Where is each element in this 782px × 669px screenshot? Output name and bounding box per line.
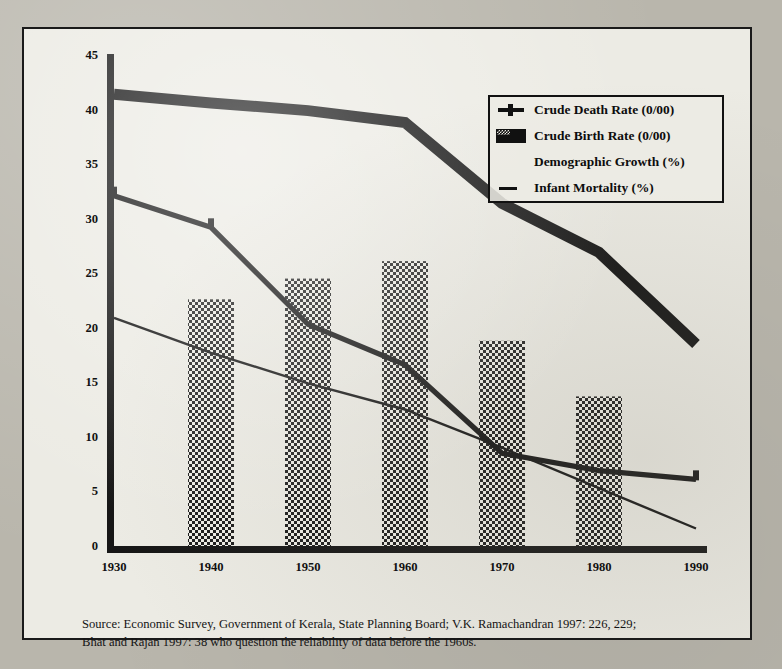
thick-line-with-marker-icon (496, 103, 526, 117)
thin-line-icon (496, 181, 526, 195)
legend-item-birth: Crude Birth Rate (0/00) (490, 123, 722, 149)
marker-death-1940 (208, 218, 214, 228)
y-tick-40: 40 (68, 103, 98, 118)
crosshatch-bar-icon (496, 155, 526, 169)
legend-item-infant: Infant Mortality (%) (490, 175, 722, 201)
figure-frame: 051015202530354045 193019401950196019701… (22, 27, 752, 640)
x-tick-1990: 1990 (669, 560, 723, 575)
bar-1970 (479, 341, 525, 547)
source-line-1: Source: Economic Survey, Government of K… (82, 617, 611, 631)
x-tick-1980: 1980 (572, 560, 626, 575)
y-tick-5: 5 (68, 484, 98, 499)
legend-item-death: Crude Death Rate (0/00) (490, 97, 722, 123)
legend-label-infant: Infant Mortality (%) (534, 180, 654, 196)
y-tick-0: 0 (68, 539, 98, 554)
x-tick-1960: 1960 (378, 560, 432, 575)
y-tick-20: 20 (68, 321, 98, 336)
y-tick-15: 15 (68, 375, 98, 390)
source-note: Source: Economic Survey, Government of K… (82, 615, 642, 651)
legend-label-demographic: Demographic Growth (%) (534, 154, 685, 170)
y-tick-45: 45 (68, 48, 98, 63)
demographic-growth-bars (188, 261, 622, 547)
scanned-page: Aslahatharanatalamanantikharanarvathikku… (0, 0, 782, 669)
y-tick-10: 10 (68, 430, 98, 445)
x-tick-1940: 1940 (184, 560, 238, 575)
legend-label-birth: Crude Birth Rate (0/00) (534, 128, 671, 144)
y-tick-30: 30 (68, 212, 98, 227)
legend-item-demographic: Demographic Growth (%) (490, 149, 722, 175)
y-tick-35: 35 (68, 157, 98, 172)
bar-1940 (188, 299, 234, 547)
marker-death-1990 (693, 470, 699, 480)
x-tick-1930: 1930 (87, 560, 141, 575)
x-tick-1950: 1950 (281, 560, 335, 575)
y-tick-25: 25 (68, 266, 98, 281)
bar-1950 (285, 279, 331, 547)
thick-filled-band-icon (496, 129, 526, 143)
legend-label-death: Crude Death Rate (0/00) (534, 102, 674, 118)
x-tick-1970: 1970 (475, 560, 529, 575)
chart-legend: Crude Death Rate (0/00)Crude Birth Rate … (488, 95, 724, 203)
